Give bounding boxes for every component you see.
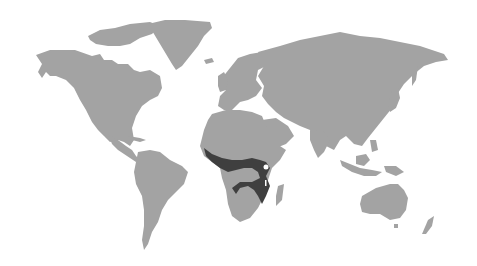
land-masses bbox=[36, 20, 448, 250]
tasmania bbox=[394, 224, 398, 228]
world-map bbox=[0, 0, 477, 266]
south-america bbox=[134, 150, 188, 250]
philippines bbox=[370, 140, 378, 152]
north-america bbox=[36, 50, 162, 146]
sakhalin bbox=[412, 66, 418, 86]
location-marker bbox=[264, 165, 269, 170]
world-map-svg bbox=[0, 0, 477, 266]
borneo bbox=[356, 154, 370, 166]
new-guinea bbox=[384, 166, 404, 176]
iceland bbox=[204, 58, 214, 64]
lake-marker bbox=[265, 180, 267, 186]
madagascar bbox=[276, 184, 284, 206]
greenland bbox=[148, 20, 212, 70]
australia bbox=[360, 184, 408, 220]
new-zealand bbox=[422, 216, 434, 234]
